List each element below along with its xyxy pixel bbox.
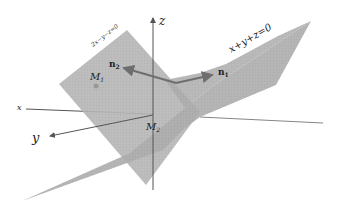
z-axis-label: z bbox=[158, 14, 166, 28]
planes-diagram: z y x n2 n1 M1 M2 2x−y−z=0 x+y+z=0 bbox=[0, 0, 337, 215]
y-axis-label: y bbox=[31, 130, 40, 145]
x-axis-label: x bbox=[17, 103, 22, 112]
point-M1 bbox=[94, 84, 99, 89]
x-axis-far bbox=[200, 117, 323, 123]
